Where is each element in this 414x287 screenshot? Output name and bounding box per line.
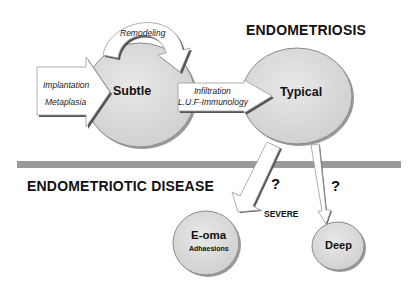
- infiltration-label: Infiltration: [194, 86, 231, 96]
- severe-label: SEVERE: [264, 209, 299, 219]
- subtle-label: Subtle: [113, 84, 151, 98]
- endometriosis-title: ENDOMETRIOSIS: [246, 22, 366, 38]
- luf-immunology-label: L.U.F-Immunology: [178, 97, 248, 107]
- remodeling-label: Remodeling: [120, 28, 165, 38]
- implantation-label: Implantation: [43, 80, 89, 90]
- eoma-ellipse: [173, 211, 241, 277]
- question-mark-left: ?: [271, 175, 280, 192]
- adhaesions-label: Adhaesions: [189, 245, 229, 252]
- question-mark-right: ?: [331, 177, 340, 194]
- arrow-to-deep: [311, 144, 332, 225]
- divider-band: [17, 161, 401, 168]
- endometriotic-disease-title: ENDOMETRIOTIC DISEASE: [27, 178, 214, 194]
- metaplasia-label: Metaplasia: [45, 97, 86, 107]
- deep-label: Deep: [325, 239, 352, 251]
- eoma-label: E-oma: [191, 229, 226, 241]
- typical-label: Typical: [280, 85, 322, 99]
